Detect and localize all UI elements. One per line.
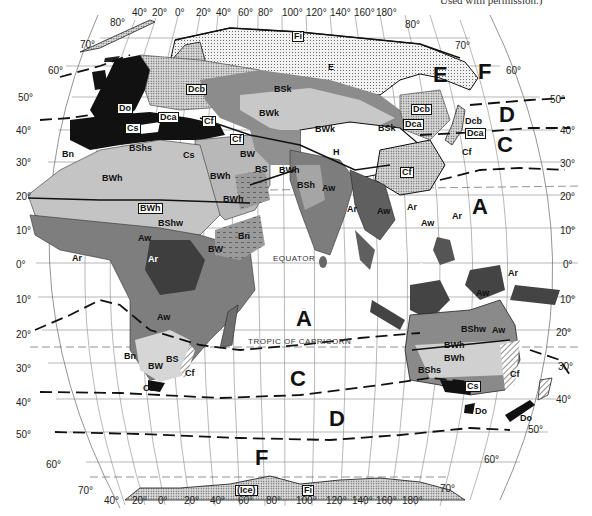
lat-label-right-0: 0° — [563, 260, 573, 270]
lat-label-left-50n: 50° — [18, 93, 33, 103]
region-label-ar-borneo: Ar — [418, 262, 428, 271]
lat-label-right-40s: 40° — [556, 395, 571, 405]
lat-label-right-80n: 80° — [405, 20, 420, 30]
region-label-bshs-nafrica: BShs — [129, 144, 152, 153]
region-label-cf-blacksea: Cf — [202, 116, 216, 127]
region-label-ar-westafrica: Ar — [72, 254, 82, 263]
region-label-bwh-arabia-south: BWh — [223, 195, 244, 204]
lon-label-top-100e: 100° — [282, 8, 303, 18]
lat-label-right-60s: 60° — [484, 455, 499, 465]
zone-letter-e-north: E — [433, 64, 448, 86]
region-label-bwh-arabia-north: BWh — [210, 172, 231, 181]
lon-label-bottom-40w: 40° — [104, 496, 119, 506]
region-label-aw-timor: Aw — [476, 289, 489, 298]
region-label-dcb-china: Dcb — [411, 104, 432, 115]
lon-label-top-40w: 40° — [132, 8, 147, 18]
lat-label-left-70s: 70° — [78, 486, 93, 496]
lat-label-right-10n: 10° — [560, 226, 575, 236]
region-label-aw-india: Aw — [322, 184, 335, 193]
lon-label-top-20w: 20° — [152, 8, 167, 18]
region-label-aw-indochina: Aw — [377, 207, 390, 216]
lat-label-left-10s: 10° — [16, 295, 31, 305]
region-label-bwh-sahel: BWh — [138, 203, 163, 214]
lat-label-right-60n: 60° — [506, 66, 521, 76]
region-label-bsk-west: BSk — [274, 85, 292, 94]
zone-letter-f-south: F — [255, 447, 268, 469]
zone-letter-d-south: D — [329, 408, 345, 430]
region-label-dca-japan: Dca — [465, 128, 486, 139]
lat-label-left-30s: 30° — [16, 364, 31, 374]
region-label-do-tasmania: Do — [475, 407, 487, 416]
lat-label-left-40s: 40° — [16, 398, 31, 408]
lat-label-left-20n: 20° — [16, 192, 31, 202]
lat-label-right-70s: 70° — [440, 484, 455, 494]
region-label-bwk-east: BWk — [315, 125, 335, 134]
lon-label-top-0: 0° — [175, 8, 185, 18]
region-label-aw-australia: Aw — [492, 326, 505, 335]
region-label-cs-levant: Cs — [183, 151, 195, 160]
region-label-fi-antarctica: Fi — [302, 485, 314, 496]
region-label-bshw-sahel: BShw — [158, 219, 183, 228]
region-label-dca-china: Dca — [403, 119, 424, 130]
region-label-do-newzealand: Do — [520, 414, 532, 423]
region-label-bwh-australia-north: BWh — [444, 341, 465, 350]
lon-label-bottom-60e: 60° — [238, 496, 253, 506]
region-label-bs-iran: BS — [255, 165, 268, 174]
tropic-of-capricorn-label: TROPIC OF CAPRICORN — [248, 338, 351, 346]
lat-label-right-20n: 20° — [560, 192, 575, 202]
region-label-e-siberia: E — [328, 63, 334, 72]
region-label-bwh-pakistan: BWh — [279, 166, 300, 175]
lon-label-bottom-20w: 20° — [132, 496, 147, 506]
lon-label-top-140e: 140° — [330, 8, 351, 18]
lat-label-right-30n: 30° — [560, 159, 575, 169]
lat-label-right-50n: 50° — [550, 95, 565, 105]
lat-label-left-70n: 70° — [80, 40, 95, 50]
region-label-cf-china: Cf — [400, 167, 414, 178]
region-label-ar-burma: Ar — [347, 205, 357, 214]
region-label-dcb-europe: Dcb — [186, 84, 207, 95]
zone-letter-c-north: C — [497, 134, 513, 156]
region-label-cs-cape: Cs — [143, 384, 155, 393]
lat-label-right-70n: 70° — [455, 41, 470, 51]
lon-label-top-40e: 40° — [216, 8, 231, 18]
region-label-dca-europe: Dca — [158, 112, 179, 123]
zone-letter-a-north: A — [472, 196, 488, 218]
lon-label-bottom-40e: 40° — [210, 496, 225, 506]
region-label-h-tibet: H — [333, 148, 340, 157]
lon-label-bottom-80e: 80° — [266, 496, 281, 506]
region-label-bsk-east: BSk — [378, 124, 396, 133]
lon-label-bottom-100e: 100° — [296, 496, 317, 506]
lat-label-left-60n: 60° — [48, 66, 63, 76]
region-label-aw-southafrica: Aw — [157, 313, 170, 322]
lon-label-bottom-0: 0° — [158, 496, 168, 506]
region-label-ar-philippines: Ar — [452, 212, 462, 221]
region-label-aw-eastafrica: Aw — [138, 234, 151, 243]
lat-label-right-10s: 10° — [560, 295, 575, 305]
region-label-cf-turkey: Cf — [230, 134, 244, 145]
lat-label-right-30s: 30° — [558, 362, 573, 372]
lon-label-bottom-20e: 20° — [184, 496, 199, 506]
lat-label-left-30n: 30° — [16, 158, 31, 168]
region-label-dcb-japan: Dcb — [465, 117, 482, 126]
lon-label-bottom-180: 180° — [402, 496, 423, 506]
region-label-cs-australia: Cs — [465, 381, 481, 392]
region-label-cf-southafrica: Cf — [185, 369, 195, 378]
lat-label-left-20s: 20° — [16, 330, 31, 340]
region-label-bn-morocco: Bn — [62, 150, 74, 159]
region-label-fi-arctic: Fi — [292, 31, 304, 42]
region-label-bn-namibia: Bn — [124, 352, 136, 361]
region-label-bsh-india: BSh — [297, 181, 315, 190]
region-label-bwh-australia-south: BWh — [444, 354, 465, 363]
zone-letter-a-south: A — [296, 308, 312, 330]
zone-letter-f-north: F — [478, 61, 491, 83]
region-label-ar-congo: Ar — [148, 255, 158, 264]
region-label-bn-horn: Bn — [238, 232, 250, 241]
lat-label-right-40n: 40° — [560, 126, 575, 136]
lon-label-top-160e: 160° — [354, 8, 375, 18]
region-label-cf-japan: Cf — [462, 148, 472, 157]
lat-label-left-10n: 10° — [16, 226, 31, 236]
region-label-bw-namibia: BW — [148, 362, 163, 371]
equator-label: EQUATOR — [273, 255, 315, 263]
lon-label-bottom-160e: 160° — [376, 496, 397, 506]
region-label-cf-australia: Cf — [510, 370, 520, 379]
